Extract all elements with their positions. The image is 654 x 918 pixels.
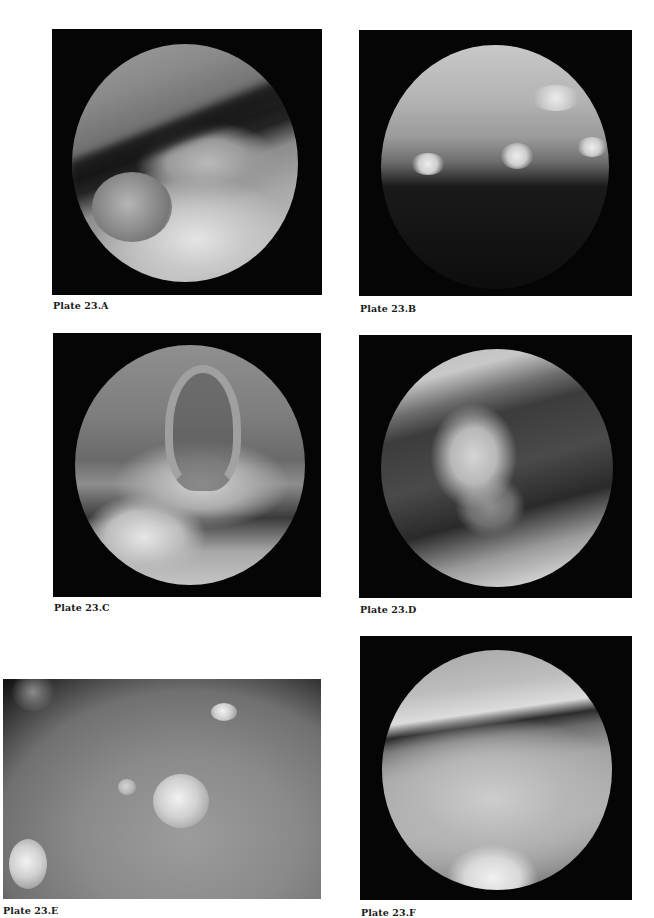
plate-caption: Plate 23.B — [360, 303, 416, 314]
tissue-arch — [165, 365, 241, 491]
nodule — [501, 143, 533, 169]
plate-23e-image — [3, 679, 321, 899]
nodule — [577, 137, 607, 157]
endoscopic-view-circle — [382, 650, 612, 890]
small-cyst — [118, 779, 136, 795]
tissue-lobe — [92, 172, 172, 242]
plate-23a-image — [52, 29, 322, 295]
plate-caption: Plate 23.A — [53, 300, 109, 311]
endoscopic-view-circle — [75, 345, 305, 585]
nodule — [411, 153, 445, 175]
central-cyst — [153, 774, 209, 828]
plate-caption: Plate 23.F — [361, 907, 416, 918]
plate-23f-image — [360, 636, 632, 900]
plate-23b-image — [359, 30, 632, 296]
endoscopic-view-circle — [381, 45, 609, 289]
tissue-fold — [11, 679, 55, 711]
plate-caption: Plate 23.E — [3, 905, 58, 916]
small-cyst — [211, 703, 237, 721]
plate-23d-image — [359, 335, 632, 598]
shadow-band — [72, 66, 298, 186]
small-cyst — [9, 839, 47, 889]
plate-caption: Plate 23.D — [360, 604, 416, 615]
plate-caption: Plate 23.C — [54, 602, 110, 613]
plate-23c-image — [53, 333, 321, 597]
nodule — [531, 85, 581, 111]
endoscopic-view-circle — [72, 44, 298, 282]
endoscopic-view-circle — [381, 349, 613, 587]
